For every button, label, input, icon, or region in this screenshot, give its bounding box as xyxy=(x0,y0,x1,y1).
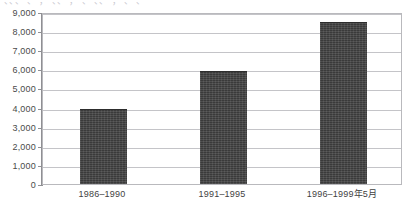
bar xyxy=(320,22,367,184)
gridline xyxy=(43,184,401,185)
x-axis-labels: 1986–19901991–19951996–1999年5月 xyxy=(42,189,402,203)
y-axis-tick-label: 0 xyxy=(0,181,36,190)
y-axis-tick-label: 5,000 xyxy=(0,85,36,94)
x-axis-tick-label: 1986–1990 xyxy=(42,189,162,200)
y-axis-tick-label: 7,000 xyxy=(0,47,36,56)
y-axis-tick-label: 8,000 xyxy=(0,28,36,37)
gridline xyxy=(43,14,401,15)
bar xyxy=(80,109,127,184)
y-axis-tick-label: 3,000 xyxy=(0,124,36,133)
plot-area xyxy=(42,13,402,185)
y-axis-tick-label: 1,000 xyxy=(0,162,36,171)
y-axis-labels: 01,0002,0003,0004,0005,0006,0007,0008,00… xyxy=(0,13,36,185)
y-axis-tick-label: 2,000 xyxy=(0,143,36,152)
y-axis-tick-label: 9,000 xyxy=(0,9,36,18)
bar xyxy=(200,71,247,184)
bar-chart-figure: 、、、 、 ， 、、 ， 、 、、 ， 、 、 01,0002,0003,000… xyxy=(0,0,409,214)
y-axis-tick-mark xyxy=(38,185,43,186)
clipped-title-strip: 、、、 、 ， 、、 ， 、 、、 ， 、 、 xyxy=(0,0,409,7)
clipped-title-text: 、、、 、 ， 、、 ， 、 、、 ， 、 、 xyxy=(4,0,146,7)
x-axis-tick-label: 1996–1999年5月 xyxy=(282,189,402,200)
y-axis-tick-label: 6,000 xyxy=(0,66,36,75)
x-axis-tick-label: 1991–1995 xyxy=(162,189,282,200)
y-axis-tick-label: 4,000 xyxy=(0,105,36,114)
